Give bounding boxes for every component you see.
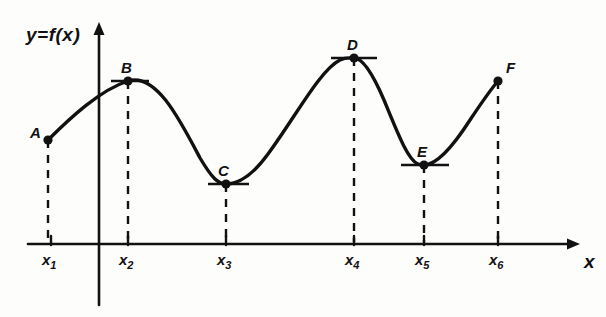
function-graph-svg [0,0,606,317]
tick-label-subscript: 6 [497,259,503,271]
figure-container: y=f(x) x ABCDEF x1x2x3x4x5x6 [0,0,606,317]
point-label-F: F [506,59,515,76]
tick-label-subscript: 1 [50,259,56,271]
tick-label-x3: x3 [217,251,231,268]
x-axis-arrowhead [567,239,580,250]
point-label-E: E [417,143,427,160]
tick-label-subscript: 3 [225,259,231,271]
horizontal-tangents-group [111,58,449,184]
point-label-B: B [121,59,132,76]
marked-points-group [43,53,502,188]
point-marker-B[interactable] [123,76,132,85]
tick-label-x1: x1 [42,251,56,268]
point-label-C: C [218,162,229,179]
point-marker-A[interactable] [43,135,52,144]
tick-label-x5: x5 [415,251,429,268]
point-marker-D[interactable] [349,53,358,62]
point-marker-F[interactable] [493,76,502,85]
y-axis-arrowhead [94,22,105,35]
tick-label-x6: x6 [489,251,503,268]
tick-label-x2: x2 [119,251,133,268]
tick-label-subscript: 4 [353,259,359,271]
tick-label-subscript: 5 [423,259,429,271]
point-label-A: A [30,124,41,141]
tick-label-x4: x4 [345,251,359,268]
point-marker-E[interactable] [419,160,428,169]
x-axis-label: x [584,251,595,273]
tick-label-subscript: 2 [127,259,133,271]
point-label-D: D [347,36,358,53]
point-marker-C[interactable] [221,179,230,188]
y-axis-label: y=f(x) [26,24,80,46]
